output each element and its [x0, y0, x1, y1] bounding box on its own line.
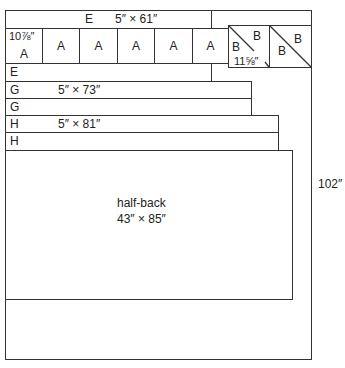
strip-g-1-letter: G: [10, 84, 19, 96]
half-back-name: half-back: [117, 197, 166, 209]
strip-h-1-letter: H: [10, 118, 19, 130]
strip-g-1-dims: 5″ × 73″: [58, 84, 100, 96]
block-b-2-lower-left: B: [278, 45, 286, 57]
block-b-1-upper-right: B: [253, 30, 261, 42]
strip-e-bottom: [5, 63, 212, 82]
strip-g-1: [5, 81, 252, 99]
strip-g-2-letter: G: [10, 101, 19, 113]
strip-e-bottom-letter: E: [10, 66, 18, 78]
block-b-1-lower-left: B: [232, 41, 240, 53]
block-b-2-upper-right: B: [294, 33, 302, 45]
strip-g-2: [5, 98, 252, 116]
outer-height-label: 102″: [318, 178, 342, 190]
strip-h-2-letter: H: [10, 135, 19, 147]
strip-h-1: [5, 115, 279, 133]
strip-h-1-dims: 5″ × 81″: [58, 118, 100, 130]
block-b-dim: 11⅝″: [234, 56, 259, 67]
half-back-dims: 43″ × 85″: [117, 213, 166, 225]
strip-h-2: [5, 132, 279, 151]
